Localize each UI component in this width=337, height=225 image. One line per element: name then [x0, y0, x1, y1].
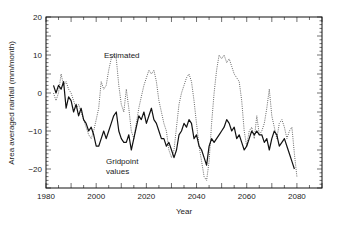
x-axis-title: Year — [176, 207, 193, 216]
y-axis-tick-labels: 20100−10−20 — [28, 13, 42, 174]
y-tick-label: 20 — [33, 13, 42, 22]
gridpoint-series-line — [54, 82, 295, 169]
x-tick-label: 2040 — [188, 192, 206, 201]
y-tick-label: 10 — [33, 51, 42, 60]
plot-frame — [46, 17, 322, 188]
y-axis-title: Area averaged rainfall (mm/month) — [7, 41, 16, 165]
estimated-series-line — [54, 55, 297, 180]
x-axis-tick-labels: 198020002020204020602080 — [37, 192, 306, 201]
x-tick-label: 2060 — [238, 192, 256, 201]
annotation-estimated: Estimated — [104, 51, 140, 60]
rainfall-line-chart: 198020002020204020602080 20100−10−20 Est… — [0, 0, 337, 225]
x-tick-label: 1980 — [37, 192, 55, 201]
axis-ticks — [46, 17, 322, 188]
y-tick-label: 0 — [38, 89, 43, 98]
annotation-gridpoint: Gridpoint — [106, 157, 139, 166]
x-tick-label: 2080 — [288, 192, 306, 201]
annotation-values: values — [106, 167, 129, 176]
y-tick-label: −20 — [28, 165, 42, 174]
y-tick-label: −10 — [28, 127, 42, 136]
x-tick-label: 2020 — [137, 192, 155, 201]
x-tick-label: 2000 — [87, 192, 105, 201]
